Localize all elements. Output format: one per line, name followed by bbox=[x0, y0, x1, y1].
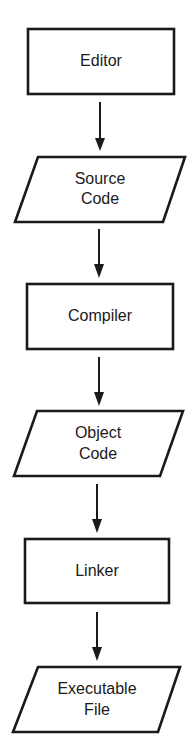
node-source-code: Source Code bbox=[15, 157, 185, 222]
node-label-line-1: Source bbox=[75, 170, 126, 187]
node-object-code: Object Code bbox=[14, 411, 183, 476]
arrowhead-icon bbox=[94, 392, 104, 406]
edge-object-code-to-linker bbox=[92, 484, 102, 533]
edge-source-code-to-compiler bbox=[94, 229, 104, 278]
arrowhead-icon bbox=[92, 519, 102, 533]
node-label: Compiler bbox=[68, 307, 133, 324]
node-compiler: Compiler bbox=[27, 284, 173, 349]
node-label-line-2: Code bbox=[79, 445, 117, 462]
edge-editor-to-source-code bbox=[95, 102, 105, 151]
node-editor: Editor bbox=[28, 29, 174, 94]
arrowhead-icon bbox=[92, 647, 102, 661]
node-label: Editor bbox=[80, 52, 122, 69]
node-label-line-2: File bbox=[84, 701, 110, 718]
edge-compiler-to-object-code bbox=[94, 357, 104, 406]
edge-linker-to-executable-file bbox=[92, 612, 102, 661]
flowchart: Editor Source Code Compiler Object Code bbox=[0, 0, 194, 746]
node-label-line-2: Code bbox=[81, 190, 119, 207]
arrowhead-icon bbox=[95, 138, 105, 151]
data-parallelogram bbox=[13, 667, 180, 732]
node-executable-file: Executable File bbox=[13, 667, 180, 732]
arrowhead-icon bbox=[94, 264, 104, 278]
node-label-line-1: Executable bbox=[57, 680, 136, 697]
node-label: Linker bbox=[75, 562, 119, 579]
data-parallelogram bbox=[14, 411, 183, 476]
node-label-line-1: Object bbox=[75, 424, 122, 441]
node-linker: Linker bbox=[25, 539, 169, 603]
